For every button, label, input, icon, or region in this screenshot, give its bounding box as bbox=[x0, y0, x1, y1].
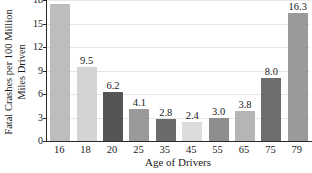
bar-slot: 2.4 bbox=[179, 0, 205, 141]
x-tick-label: 25 bbox=[125, 144, 151, 156]
y-axis-title-line-1: Fatal Crashes per 100 Million bbox=[3, 0, 16, 143]
bar-slot bbox=[47, 0, 73, 141]
bar-value-label: 3.8 bbox=[232, 99, 258, 110]
bar-value-label: 4.1 bbox=[126, 97, 152, 108]
bar[interactable] bbox=[156, 119, 176, 141]
bar-slot: 3.8 bbox=[232, 0, 258, 141]
fatal-crashes-bar-chart: Fatal Crashes per 100 Million Miles Driv… bbox=[0, 0, 312, 173]
bar-value-label: 6.2 bbox=[100, 80, 126, 91]
bar-value-label: 2.4 bbox=[179, 110, 205, 121]
y-axis-title: Fatal Crashes per 100 Million Miles Driv… bbox=[0, 0, 30, 143]
bar[interactable] bbox=[103, 92, 123, 141]
bar[interactable] bbox=[209, 118, 229, 142]
y-axis-title-line-2: Miles Driven bbox=[15, 0, 28, 143]
plot-area: 9.56.24.12.82.43.03.88.016.3 bbox=[46, 0, 310, 141]
bar-slot: 3.0 bbox=[205, 0, 231, 141]
bar-value-label: 2.8 bbox=[153, 107, 179, 118]
x-tick-label: 79 bbox=[284, 144, 310, 156]
bar-slot: 9.5 bbox=[73, 0, 99, 141]
bar[interactable] bbox=[235, 111, 255, 141]
bar-value-label: 16.3 bbox=[285, 1, 311, 12]
x-tick-label: 65 bbox=[231, 144, 257, 156]
y-tick-label: 9 bbox=[27, 66, 43, 76]
x-axis-title: Age of Drivers bbox=[46, 156, 310, 169]
bar[interactable] bbox=[261, 78, 281, 141]
bar[interactable] bbox=[50, 4, 70, 141]
y-tick-label: 12 bbox=[27, 42, 43, 52]
y-tick-label: 3 bbox=[27, 113, 43, 123]
bar[interactable] bbox=[77, 67, 97, 141]
y-tick-label: 18 bbox=[27, 0, 43, 5]
y-tick-label: 0 bbox=[27, 136, 43, 146]
bar-slot: 6.2 bbox=[100, 0, 126, 141]
x-tick-label: 20 bbox=[99, 144, 125, 156]
y-axis-tick-labels: 0369121518 bbox=[27, 0, 43, 173]
bar-slot: 2.8 bbox=[153, 0, 179, 141]
bar[interactable] bbox=[129, 109, 149, 141]
x-tick-label: 75 bbox=[257, 144, 283, 156]
bar[interactable] bbox=[288, 13, 308, 141]
bar-value-label: 9.5 bbox=[73, 55, 99, 66]
bar[interactable] bbox=[182, 122, 202, 141]
y-tick-label: 15 bbox=[27, 19, 43, 29]
bar-value-label: 8.0 bbox=[258, 66, 284, 77]
x-tick-label: 35 bbox=[152, 144, 178, 156]
x-tick-label: 55 bbox=[204, 144, 230, 156]
x-tick-label: 18 bbox=[72, 144, 98, 156]
x-tick-label: 16 bbox=[46, 144, 72, 156]
bar-slot: 4.1 bbox=[126, 0, 152, 141]
y-tick-label: 6 bbox=[27, 89, 43, 99]
bar-value-label: 3.0 bbox=[205, 106, 231, 117]
bars-group: 9.56.24.12.82.43.03.88.016.3 bbox=[47, 0, 310, 141]
x-tick-label: 45 bbox=[178, 144, 204, 156]
bar-slot: 8.0 bbox=[258, 0, 284, 141]
bar-slot: 16.3 bbox=[285, 0, 311, 141]
x-axis-line bbox=[46, 141, 312, 142]
